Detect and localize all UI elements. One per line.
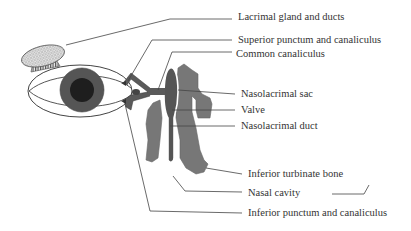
label-nasolacrimal-duct: Nasolacrimal duct	[241, 120, 318, 132]
label-valve: Valve	[241, 104, 265, 116]
label-superior-punctum: Superior punctum and canaliculus	[238, 34, 381, 46]
label-inferior-turbinate: Inferior turbinate bone	[248, 168, 343, 180]
nasal-wall-tissue	[146, 64, 212, 174]
label-nasolacrimal-sac: Nasolacrimal sac	[241, 88, 313, 100]
eye	[28, 65, 132, 117]
label-nasal-cavity: Nasal cavity	[248, 187, 300, 199]
label-lacrimal-gland: Lacrimal gland and ducts	[238, 11, 344, 23]
pupil	[70, 78, 94, 102]
label-common-canaliculus: Common canaliculus	[236, 48, 325, 60]
label-inferior-punctum: Inferior punctum and canaliculus	[248, 207, 387, 219]
lacrimal-apparatus-diagram: Lacrimal gland and ducts Superior punctu…	[0, 0, 411, 231]
